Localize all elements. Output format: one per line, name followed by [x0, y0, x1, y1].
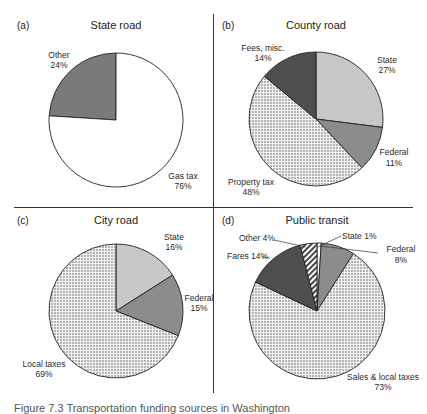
svg-text:Gas tax: Gas tax — [168, 171, 198, 181]
svg-text:Other: Other — [48, 50, 69, 60]
svg-text:14%: 14% — [254, 53, 271, 63]
label-b-state: State 27% — [377, 55, 397, 75]
svg-text:69%: 69% — [35, 369, 52, 379]
svg-text:Sales & local taxes: Sales & local taxes — [347, 372, 419, 382]
leader-line-d-other — [274, 240, 306, 247]
label-b-fees-misc: Fees, misc. 14% — [241, 43, 284, 63]
svg-text:Federal: Federal — [185, 293, 214, 303]
svg-text:16%: 16% — [165, 242, 182, 252]
label-a-gas-tax: Gas tax 76% — [168, 171, 198, 191]
svg-text:City road: City road — [94, 214, 138, 226]
panel-a-header: (a) State road — [17, 19, 141, 31]
panel-b-header: (b) County road — [222, 19, 346, 31]
svg-text:73%: 73% — [374, 382, 391, 392]
pie-slice-state — [316, 52, 383, 127]
svg-text:(a): (a) — [17, 20, 29, 31]
svg-text:Local taxes: Local taxes — [23, 359, 66, 369]
label-d-sales-local-taxes: Sales & local taxes 73% — [347, 372, 419, 392]
svg-text:27%: 27% — [378, 65, 395, 75]
label-c-local-taxes: Local taxes 69% — [23, 359, 66, 379]
label-c-federal: Federal 15% — [185, 293, 214, 313]
label-a-other: Other 24% — [48, 50, 69, 70]
svg-text:Federal: Federal — [387, 244, 416, 254]
figure-caption: Figure 7.3 Transportation funding source… — [14, 402, 290, 414]
pie-county-road — [249, 52, 383, 186]
svg-text:24%: 24% — [50, 60, 67, 70]
pie-state-road — [49, 53, 183, 187]
label-d-other: Other 4% — [239, 233, 275, 243]
svg-text:Federal: Federal — [380, 147, 409, 157]
label-d-federal: Federal 8% — [387, 244, 416, 265]
svg-text:Fares 14%: Fares 14% — [227, 251, 269, 261]
label-b-property-tax: Property tax 48% — [228, 177, 275, 197]
svg-text:State: State — [377, 55, 397, 65]
panel-c-header: (c) City road — [17, 214, 138, 226]
label-c-state: State 16% — [164, 232, 184, 252]
svg-text:15%: 15% — [190, 303, 207, 313]
svg-text:State road: State road — [91, 19, 142, 31]
label-b-federal: Federal 11% — [380, 147, 409, 168]
svg-text:State 1%: State 1% — [342, 231, 377, 241]
panel-d-header: (d) Public transit — [222, 214, 348, 226]
pie-public-transit — [249, 243, 385, 379]
svg-text:48%: 48% — [242, 187, 259, 197]
svg-text:11%: 11% — [386, 158, 403, 168]
svg-text:County road: County road — [286, 19, 346, 31]
label-d-state: State 1% — [342, 231, 377, 241]
svg-text:State: State — [164, 232, 184, 242]
svg-text:Other 4%: Other 4% — [239, 233, 275, 243]
pie-city-road — [49, 244, 183, 378]
svg-text:Property tax: Property tax — [228, 177, 275, 187]
svg-text:76%: 76% — [174, 181, 191, 191]
svg-text:Public transit: Public transit — [286, 214, 349, 226]
label-d-fares: Fares 14% — [227, 251, 269, 261]
svg-text:Fees, misc.: Fees, misc. — [241, 43, 284, 53]
svg-text:8%: 8% — [395, 255, 408, 265]
svg-text:(d): (d) — [222, 215, 234, 226]
svg-text:(c): (c) — [17, 215, 29, 226]
svg-text:(b): (b) — [222, 20, 234, 31]
